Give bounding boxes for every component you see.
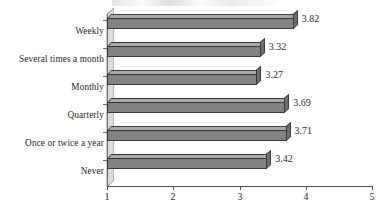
bar-monthly <box>107 70 257 85</box>
bar-front-face <box>107 74 257 85</box>
bar-never <box>107 154 267 169</box>
x-tick-label-5: 5 <box>362 191 382 203</box>
bar-front-face <box>107 102 285 113</box>
bar-once-or-twice-a-year <box>107 126 287 141</box>
bar-front-face <box>107 46 261 57</box>
bar-value-label-once-or-twice-a-year: 3.71 <box>295 125 313 137</box>
x-tick-3 <box>240 186 241 190</box>
x-tick-label-4: 4 <box>296 191 316 203</box>
bar-value-label-monthly: 3.27 <box>265 69 283 81</box>
bar-quarterly <box>107 98 285 113</box>
bar-value-label-several-times-a-month: 3.32 <box>269 41 287 53</box>
bar-value-label-weekly: 3.82 <box>302 13 320 25</box>
bar-weekly <box>107 14 294 29</box>
bar-value-label-quarterly: 3.69 <box>293 97 311 109</box>
plot-area: 1 2 3 4 5 3.823.323.273.693.713.42 <box>0 0 384 210</box>
bar-value-label-never: 3.42 <box>275 153 293 165</box>
x-tick-label-2: 2 <box>163 191 183 203</box>
x-tick-1 <box>107 186 108 190</box>
bar-chart: Weekly Several times a month Monthly Qua… <box>0 0 384 210</box>
bar-several-times-a-month <box>107 42 261 57</box>
x-tick-5 <box>372 186 373 190</box>
x-tick-label-3: 3 <box>230 191 250 203</box>
bar-front-face <box>107 130 287 141</box>
bar-front-face <box>107 18 294 29</box>
bar-front-face <box>107 158 267 169</box>
x-tick-4 <box>306 186 307 190</box>
x-tick-label-1: 1 <box>97 191 117 203</box>
x-tick-2 <box>173 186 174 190</box>
